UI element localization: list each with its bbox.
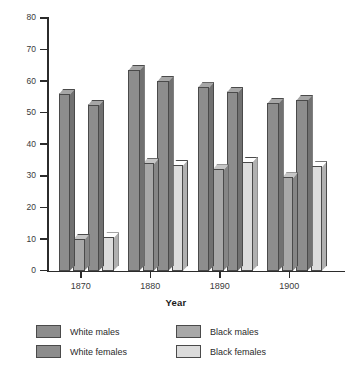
bar-side-face xyxy=(70,89,75,271)
y-tick-50 xyxy=(40,112,48,114)
y-tick-70 xyxy=(40,49,48,51)
bar-side-face xyxy=(279,98,284,270)
bar-chart-figure: 80706050403020100 1870188018901900 Year … xyxy=(0,0,352,380)
bar-side-face xyxy=(85,234,90,271)
y-tick-label-60: 60 xyxy=(6,77,36,86)
y-tick-80 xyxy=(40,17,48,19)
bar-1880-white-males xyxy=(128,65,145,271)
figure-caption xyxy=(0,369,352,380)
bar-side-face xyxy=(224,164,229,270)
x-tick-label-1870: 1870 xyxy=(56,281,106,291)
y-tick-label-50: 50 xyxy=(6,108,36,117)
bar-1870-white-males xyxy=(59,89,76,271)
x-axis-title: Year xyxy=(0,297,352,308)
bar-1870-white-females xyxy=(88,100,105,271)
legend-label: White females xyxy=(70,347,127,357)
legend-swatch-icon xyxy=(36,345,61,358)
legend-item-black-males[interactable]: Black males xyxy=(176,325,302,338)
y-tick-label-80: 80 xyxy=(6,13,36,22)
x-tick-1890 xyxy=(219,271,221,278)
bar-side-face xyxy=(209,82,214,270)
bar-side-face xyxy=(238,87,243,271)
bar-1890-white-females xyxy=(227,87,244,271)
bar-front-face xyxy=(267,103,279,270)
legend-item-black-females[interactable]: Black females xyxy=(176,345,302,358)
bar-1870-black-males xyxy=(73,234,90,271)
legend-swatch-icon xyxy=(176,325,201,338)
legend-label: Black females xyxy=(210,347,266,357)
y-tick-20 xyxy=(40,207,48,209)
bar-side-face xyxy=(114,232,119,270)
bar-1870-black-females xyxy=(102,232,119,270)
y-tick-0 xyxy=(40,270,48,272)
y-tick-label-30: 30 xyxy=(6,171,36,180)
bar-side-face xyxy=(99,100,104,271)
bar-1880-white-females xyxy=(157,76,174,271)
y-tick-label-10: 10 xyxy=(6,235,36,244)
x-axis-line xyxy=(47,271,345,273)
legend-swatch-icon xyxy=(176,345,201,358)
legend-item-white-males[interactable]: White males xyxy=(36,325,162,338)
bar-side-face xyxy=(253,157,258,271)
bar-1900-white-females xyxy=(296,95,313,271)
legend-label: Black males xyxy=(210,327,259,337)
bar-side-face xyxy=(308,95,313,271)
bar-side-face xyxy=(169,76,174,271)
legend-swatch-icon xyxy=(36,325,61,338)
bar-side-face xyxy=(183,160,188,271)
x-tick-label-1880: 1880 xyxy=(125,281,175,291)
y-tick-60 xyxy=(40,80,48,82)
legend-label: White males xyxy=(70,327,120,337)
bar-1890-black-males xyxy=(212,164,229,270)
bar-side-face xyxy=(322,161,327,270)
y-tick-label-70: 70 xyxy=(6,45,36,54)
bar-1890-white-males xyxy=(198,82,215,270)
bar-1880-black-females xyxy=(172,160,189,271)
bar-1880-black-males xyxy=(143,158,160,270)
x-tick-1880 xyxy=(150,271,152,278)
y-tick-label-40: 40 xyxy=(6,140,36,149)
bar-front-face xyxy=(59,94,71,271)
x-tick-label-1900: 1900 xyxy=(264,281,314,291)
bar-1900-white-males xyxy=(267,98,284,270)
bar-1900-black-females xyxy=(311,161,328,270)
x-tick-label-1890: 1890 xyxy=(195,281,245,291)
bar-side-face xyxy=(293,172,298,270)
y-tick-30 xyxy=(40,175,48,177)
bar-1890-black-females xyxy=(241,157,258,271)
bar-side-face xyxy=(140,65,145,271)
bar-front-face xyxy=(198,87,210,270)
bar-front-face xyxy=(128,70,140,271)
bar-side-face xyxy=(154,158,159,270)
legend-item-white-females[interactable]: White females xyxy=(36,345,162,358)
y-tick-40 xyxy=(40,143,48,145)
y-tick-label-20: 20 xyxy=(6,203,36,212)
chart-legend: White malesBlack malesWhite femalesBlack… xyxy=(36,325,316,358)
y-tick-10 xyxy=(40,238,48,240)
x-tick-1870 xyxy=(80,271,82,278)
y-tick-label-0: 0 xyxy=(6,266,36,275)
x-tick-1900 xyxy=(289,271,291,278)
plot-area: 80706050403020100 1870188018901900 xyxy=(0,0,352,296)
bar-1900-black-males xyxy=(282,172,299,270)
